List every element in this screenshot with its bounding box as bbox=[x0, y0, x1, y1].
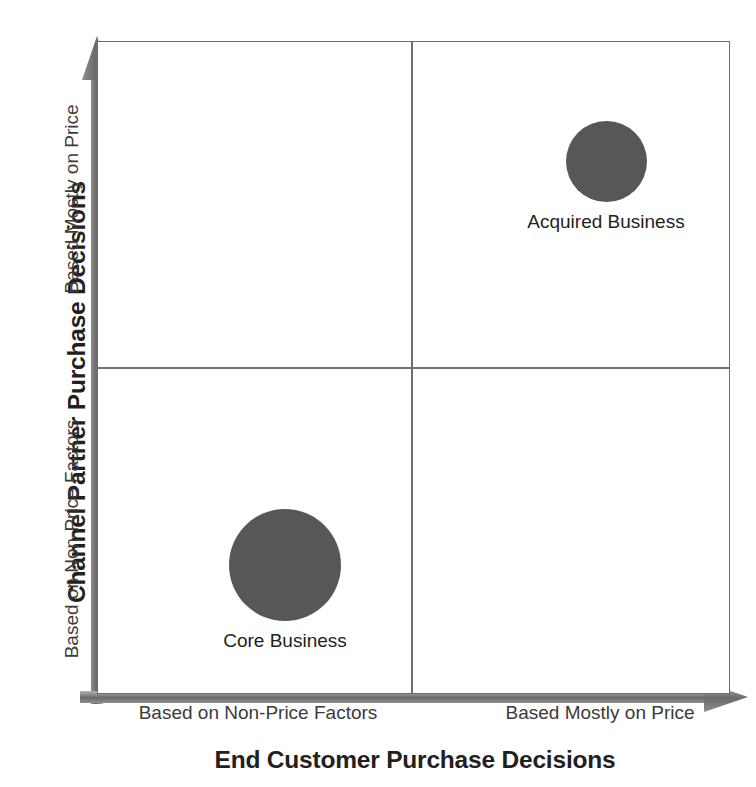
quadrant-matrix-diagram: Channel Partner Purchase Decisions Based… bbox=[0, 0, 756, 787]
bubble-acquired-business[interactable] bbox=[566, 121, 647, 202]
x-axis-high-label: Based Mostly on Price bbox=[452, 702, 748, 724]
bubble-core-business[interactable] bbox=[229, 509, 341, 621]
x-axis-low-label: Based on Non-Price Factors bbox=[110, 702, 406, 724]
x-axis-title: End Customer Purchase Decisions bbox=[90, 746, 740, 774]
bubble-label-core-business: Core Business bbox=[165, 630, 405, 652]
bubble-label-acquired-business: Acquired Business bbox=[486, 211, 726, 233]
quadrant-divider-horizontal bbox=[97, 367, 730, 369]
